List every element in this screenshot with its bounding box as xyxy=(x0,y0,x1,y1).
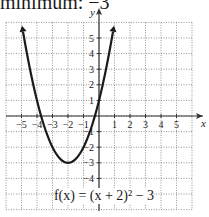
curve-arrow-left-icon xyxy=(20,26,27,33)
y-tick-label: 3 xyxy=(89,64,94,75)
y-tick-label: 1 xyxy=(89,95,94,106)
axes: xy xyxy=(6,6,206,211)
y-tick-label: 2 xyxy=(89,79,94,90)
y-axis-label: y xyxy=(89,6,95,18)
parabola-curve xyxy=(20,26,117,163)
equation-label: f(x) = (x + 2)² − 3 xyxy=(54,188,154,204)
x-tick-label: −4 xyxy=(32,119,43,130)
y-tick-label: −4 xyxy=(83,173,94,184)
x-tick-label: 2 xyxy=(128,119,133,130)
x-tick-label: 1 xyxy=(112,119,117,130)
x-tick-label: 3 xyxy=(143,119,148,130)
y-tick-label: −3 xyxy=(83,157,94,168)
equation-text: f(x) = (x + 2)² − 3 xyxy=(54,188,154,204)
parabola-chart: xy −5−4−3−2−11234554321−1−2−3−4 f(x) = (… xyxy=(0,0,209,217)
y-tick-label: 4 xyxy=(89,48,94,59)
x-axis-label: x xyxy=(200,117,206,129)
x-tick-label: −2 xyxy=(63,119,74,130)
x-tick-label: 5 xyxy=(174,119,179,130)
curve-arrow-right-icon xyxy=(110,26,117,33)
x-tick-label: −3 xyxy=(47,119,58,130)
x-tick-label: −5 xyxy=(16,119,27,130)
x-tick-label: 4 xyxy=(159,119,164,130)
y-tick-label: 5 xyxy=(89,33,94,44)
